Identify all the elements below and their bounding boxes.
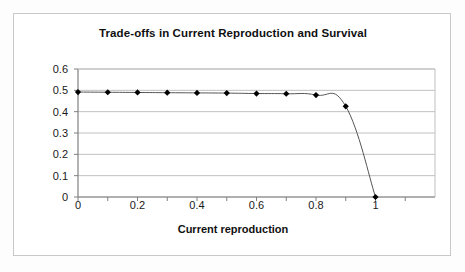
- x-tick-label: 1: [356, 200, 396, 211]
- gridlines: [78, 69, 435, 197]
- chart-frame: Trade-offs in Current Reproduction and S…: [13, 13, 451, 256]
- x-tick-label: 0.2: [118, 200, 158, 211]
- x-axis-title: Current reproduction: [14, 223, 452, 235]
- axis-tick-marks: [74, 69, 405, 201]
- chart-title: Trade-offs in Current Reproduction and S…: [14, 27, 452, 39]
- data-point-marker: [253, 90, 259, 96]
- y-tick-label: 0.1: [34, 170, 68, 181]
- data-point-marker: [343, 103, 349, 109]
- y-tick-label: 0.5: [34, 85, 68, 96]
- data-series-line: [78, 92, 376, 197]
- y-tick-label: 0.3: [34, 128, 68, 139]
- y-tick-label: 0.2: [34, 149, 68, 160]
- data-point-marker: [224, 90, 230, 96]
- y-tick-label: 0.4: [34, 106, 68, 117]
- data-point-marker: [313, 92, 319, 98]
- x-axis-tick-labels: 00.20.40.60.81: [78, 200, 435, 216]
- scanned-page: Trade-offs in Current Reproduction and S…: [0, 0, 465, 272]
- x-tick-label: 0.6: [237, 200, 277, 211]
- x-tick-label: 0.4: [177, 200, 217, 211]
- x-tick-label: 0: [58, 200, 98, 211]
- plot-area: [78, 69, 435, 197]
- data-point-marker: [283, 91, 289, 97]
- x-tick-label: 0.8: [296, 200, 336, 211]
- chart-canvas: [78, 69, 435, 197]
- y-tick-label: 0.6: [34, 64, 68, 75]
- y-axis-tick-labels: 00.10.20.30.40.50.6: [34, 69, 68, 197]
- data-point-markers: [75, 89, 379, 200]
